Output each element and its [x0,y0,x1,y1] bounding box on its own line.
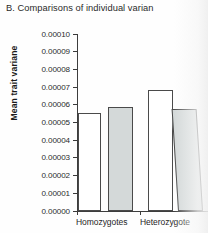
y-axis-tick-mark [73,69,77,70]
bar-homozygotes-white [78,113,101,211]
y-axis-tick: 0.00000 [0,206,77,217]
y-axis-tick: 0.00010 [0,29,77,40]
y-axis-tick-mark [73,104,77,105]
y-axis-tick-label: 0.00009 [41,46,70,57]
y-axis-tick: 0.00006 [0,99,77,110]
y-axis-tick-mark [73,34,77,35]
y-axis-tick-mark [73,122,77,123]
y-axis-tick-label: 0.00008 [41,64,70,75]
x-axis-category-label: Homozygotes [76,216,127,228]
y-axis-tick-label: 0.00005 [41,117,70,128]
y-axis-tick: 0.00005 [0,117,77,128]
x-axis-category-label: Heterozygote [140,216,190,228]
y-axis-tick: 0.00003 [0,152,77,163]
bar-heterozygote-gray [172,109,203,211]
y-axis-tick-mark [73,157,77,158]
y-axis-tick-mark [73,175,77,176]
y-axis-tick-label: 0.00004 [41,135,70,146]
y-axis-tick: 0.00002 [0,170,77,181]
y-axis-tick-label: 0.00000 [41,206,70,217]
y-axis-tick-mark [73,51,77,52]
y-axis-tick-label: 0.00010 [41,29,70,40]
x-axis-tick-mark [77,211,78,215]
y-axis-tick-mark [73,193,77,194]
bar-heterozygote-white [148,90,173,211]
y-axis-tick-label: 0.00006 [41,99,70,110]
y-axis-tick-label: 0.00007 [41,82,70,93]
y-axis-tick-mark [73,87,77,88]
y-axis-tick: 0.00007 [0,82,77,93]
y-axis-tick: 0.00001 [0,188,77,199]
y-axis-tick-label: 0.00003 [41,152,70,163]
plot-area: 0.000100.000090.000080.000070.000060.000… [0,0,208,233]
y-axis-tick-label: 0.00002 [41,170,70,181]
x-axis-tick-mark [140,211,141,215]
y-axis-tick-mark [73,140,77,141]
y-axis-tick: 0.00004 [0,135,77,146]
y-axis-tick: 0.00009 [0,46,77,57]
y-axis-tick-label: 0.00001 [41,188,70,199]
bar-homozygotes-gray [108,107,133,211]
y-axis-tick: 0.00008 [0,64,77,75]
